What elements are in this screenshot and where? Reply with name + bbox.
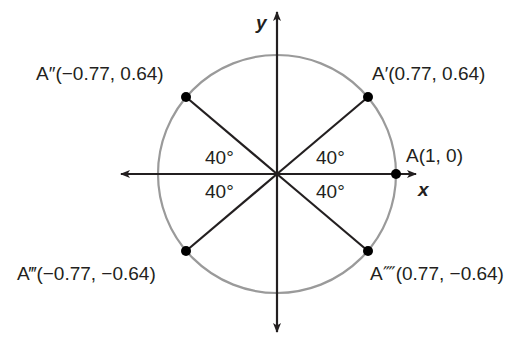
point-a-label: A(1, 0) <box>406 145 463 166</box>
unit-circle-diagram: y x A(1, 0) A′(0.77, 0.64) A″(−0.77, 0.6… <box>0 0 527 337</box>
x-axis-label: x <box>417 179 430 200</box>
angle-label-quadrant-4: 40° <box>316 181 345 202</box>
point-a-quadruple-prime <box>363 246 373 256</box>
point-a <box>391 169 401 179</box>
angle-label-quadrant-1: 40° <box>316 147 345 168</box>
point-a-double-prime <box>181 92 191 102</box>
point-a-prime-label: A′(0.77, 0.64) <box>372 63 485 84</box>
angle-label-quadrant-2: 40° <box>205 147 234 168</box>
point-a-triple-prime-label: A‴(−0.77, −0.64) <box>17 263 156 284</box>
point-a-triple-prime <box>181 246 191 256</box>
point-a-double-prime-label: A″(−0.77, 0.64) <box>36 63 164 84</box>
y-axis-label: y <box>255 12 268 33</box>
point-a-prime <box>363 92 373 102</box>
point-a-quadruple-prime-label: A⁗(0.77, −0.64) <box>370 263 504 284</box>
angle-label-quadrant-3: 40° <box>205 181 234 202</box>
